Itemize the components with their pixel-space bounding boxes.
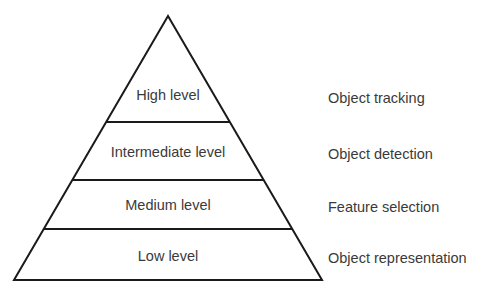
description-medium: Feature selection (328, 199, 439, 215)
description-intermediate: Object detection (328, 146, 433, 162)
level-label-high: High level (136, 87, 200, 103)
level-label-low: Low level (138, 248, 198, 264)
level-label-medium: Medium level (125, 197, 210, 213)
description-low: Object representation (328, 250, 467, 266)
level-label-intermediate: Intermediate level (111, 144, 225, 160)
description-high: Object tracking (328, 90, 425, 106)
